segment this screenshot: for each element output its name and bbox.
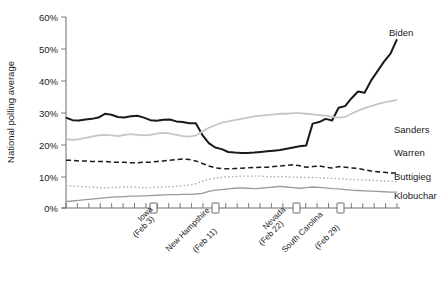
series-line-sanders: [66, 100, 397, 140]
series-line-buttigieg: [66, 176, 397, 188]
event-label-new-hampshire-date: (Feb 11): [191, 226, 219, 254]
series-line-klobuchar: [66, 186, 397, 201]
series-label-sanders: Sanders: [394, 124, 430, 135]
x-axis-ticks: [66, 203, 397, 208]
event-labels: Iowa (Feb 3) New Hampshire (Feb 11) Neva…: [131, 205, 341, 255]
y-axis-ticks: [61, 17, 66, 208]
y-tick-60: 60%: [39, 12, 59, 23]
series-label-biden: Biden: [389, 27, 413, 38]
y-tick-50: 50%: [39, 44, 59, 55]
y-tick-20: 20%: [39, 140, 59, 151]
y-tick-10: 10%: [39, 172, 59, 183]
y-tick-40: 40%: [39, 76, 59, 87]
series-label-buttigieg: Buttigieg: [394, 171, 431, 182]
polling-average-line-chart: National polling average 60% 50% 40% 30%…: [0, 0, 446, 284]
y-tick-30: 30%: [39, 108, 59, 119]
event-marker-south-carolina[interactable]: [337, 203, 344, 213]
event-marker-nevada[interactable]: [293, 203, 300, 213]
event-marker-new-hampshire[interactable]: [212, 203, 219, 213]
y-tick-0: 0%: [44, 203, 58, 214]
series-labels: Biden Sanders Warren Buttigieg Klobuchar: [389, 27, 437, 201]
y-axis-tick-labels: 60% 50% 40% 30% 20% 10% 0%: [39, 12, 59, 214]
series-line-warren: [66, 159, 397, 173]
series-group: [66, 39, 397, 201]
y-axis-title: National polling average: [5, 61, 16, 163]
event-label-south-carolina-date: (Feb 29): [313, 223, 341, 251]
series-label-warren: Warren: [394, 147, 425, 158]
series-label-klobuchar: Klobuchar: [394, 190, 437, 201]
chart-svg: National polling average 60% 50% 40% 30%…: [0, 0, 446, 284]
